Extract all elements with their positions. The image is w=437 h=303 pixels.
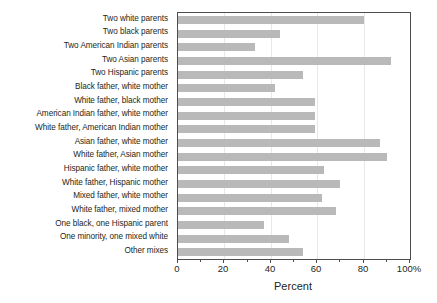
x-axis-tick-label: 100% <box>397 264 421 274</box>
bar-row <box>178 245 410 259</box>
y-axis-tick-label: Two Hispanic parents <box>0 67 172 81</box>
bar-row <box>178 163 410 177</box>
bar-row <box>178 81 410 95</box>
bar-row <box>178 150 410 164</box>
bar-series <box>178 13 410 259</box>
y-axis-category-labels: Two white parentsTwo black parentsTwo Am… <box>0 12 172 258</box>
y-axis-tick-label: Mixed father, white mother <box>0 190 172 204</box>
bar-row <box>178 109 410 123</box>
bar <box>178 43 255 51</box>
bar <box>178 194 322 202</box>
bar <box>178 16 364 24</box>
bar-row <box>178 68 410 82</box>
bar <box>178 71 303 79</box>
y-axis-tick-label: Two white parents <box>0 12 172 26</box>
y-axis-tick-label: Two Asian parents <box>0 53 172 67</box>
x-axis-tick-label: 80 <box>358 264 369 274</box>
bar <box>178 125 315 133</box>
y-axis-tick-label: White father, Hispanic mother <box>0 176 172 190</box>
x-axis-minor-tick <box>293 259 294 262</box>
y-axis-tick-label: Two American Indian parents <box>0 39 172 53</box>
bar <box>178 180 340 188</box>
x-axis-minor-tick <box>200 259 201 262</box>
x-axis-tick-label: 60 <box>311 264 322 274</box>
plot-area <box>177 12 411 260</box>
x-axis-minor-tick <box>247 259 248 262</box>
bar-row <box>178 54 410 68</box>
bar <box>178 166 324 174</box>
y-axis-tick-label: Hispanic father, white mother <box>0 162 172 176</box>
y-axis-tick-label: Two black parents <box>0 26 172 40</box>
x-axis-title: Percent <box>177 280 409 292</box>
bar <box>178 57 391 65</box>
x-axis-tick-label: 0 <box>174 264 179 274</box>
x-axis-tick-label: 20 <box>218 264 229 274</box>
bar <box>178 112 315 120</box>
bar <box>178 248 303 256</box>
y-axis-tick-label: White father, Asian mother <box>0 149 172 163</box>
bar <box>178 153 387 161</box>
bar-row <box>178 191 410 205</box>
y-axis-tick-label: White father, black mother <box>0 94 172 108</box>
bar-row <box>178 13 410 27</box>
x-axis-tick-label: 40 <box>265 264 276 274</box>
y-axis-tick-label: White father, American Indian mother <box>0 121 172 135</box>
y-axis-tick-label: One black, one Hispanic parent <box>0 217 172 231</box>
bar <box>178 98 315 106</box>
bar-row <box>178 218 410 232</box>
y-axis-tick-label: One minority, one mixed white <box>0 231 172 245</box>
bar-row <box>178 122 410 136</box>
bar-row <box>178 95 410 109</box>
bar-chart: Two white parentsTwo black parentsTwo Am… <box>0 0 437 303</box>
y-axis-tick-label: Asian father, white mother <box>0 135 172 149</box>
bar <box>178 207 336 215</box>
y-axis-tick-label: Black father, white mother <box>0 80 172 94</box>
bar <box>178 235 289 243</box>
bar <box>178 139 380 147</box>
bar-row <box>178 40 410 54</box>
bar <box>178 221 264 229</box>
x-axis-minor-tick <box>339 259 340 262</box>
bar-row <box>178 177 410 191</box>
bar-row <box>178 27 410 41</box>
x-axis-minor-tick <box>386 259 387 262</box>
bar-row <box>178 232 410 246</box>
y-axis-tick-label: American Indian father, white mother <box>0 108 172 122</box>
bar-row <box>178 204 410 218</box>
bar <box>178 30 280 38</box>
y-axis-tick-label: Other mixes <box>0 244 172 258</box>
bar-row <box>178 136 410 150</box>
bar <box>178 84 275 92</box>
y-axis-tick-label: White father, mixed mother <box>0 203 172 217</box>
x-axis: Percent 020406080100% <box>177 259 411 303</box>
